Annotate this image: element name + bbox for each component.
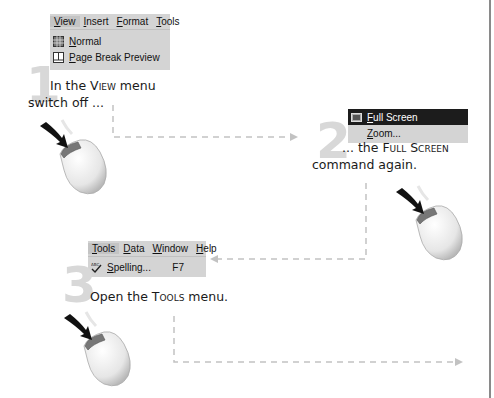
menu-insert[interactable]: Insert — [80, 16, 113, 27]
menu-tools[interactable]: Tools — [88, 243, 119, 254]
mouse-click-icon — [36, 114, 116, 204]
step-3-instruction: Open the Tools menu. — [90, 289, 228, 304]
shortcut-f7: F7 — [172, 262, 206, 273]
menu-format[interactable]: Format — [113, 16, 153, 27]
step-2-instruction: ... the Full Screen — [342, 140, 449, 155]
view-menu: View Insert Format Tools Normal Page Bre… — [50, 14, 170, 70]
menu-item-page-break-preview[interactable]: Page Break Preview — [50, 49, 170, 65]
menu-bar: Tools Data Window Help — [88, 241, 206, 257]
full-screen-icon — [351, 112, 362, 123]
connector-3-onward — [174, 316, 455, 362]
connector-2-to-3 — [218, 183, 366, 259]
menu-item-zoom[interactable]: Zoom... — [348, 125, 468, 141]
step-1-instruction-line2: switch off ... — [28, 95, 104, 110]
menu-item-normal[interactable]: Normal — [50, 33, 170, 49]
menu-window[interactable]: Window — [149, 243, 193, 254]
menu-item-spelling[interactable]: ABC Spelling... F7 — [88, 259, 206, 275]
step-1-instruction: In the View menu — [50, 78, 156, 93]
menu-data[interactable]: Data — [119, 243, 148, 254]
menu-bar: View Insert Format Tools — [50, 14, 170, 30]
menu-tools[interactable]: Tools — [152, 16, 183, 27]
menu-view[interactable]: View — [50, 16, 80, 27]
menu-item-full-screen[interactable]: Full Screen — [348, 109, 468, 125]
step-2-instruction-line2: command again. — [312, 157, 417, 172]
view-menu-fullscreen: Full Screen Zoom... — [348, 109, 468, 143]
mouse-click-icon — [60, 306, 140, 396]
connector-1-to-2 — [113, 105, 290, 137]
menu-help[interactable]: Help — [192, 243, 221, 254]
tools-menu: Tools Data Window Help ABC Spelling... F… — [88, 241, 206, 277]
normal-view-icon — [53, 36, 64, 47]
mouse-click-icon — [392, 180, 472, 270]
